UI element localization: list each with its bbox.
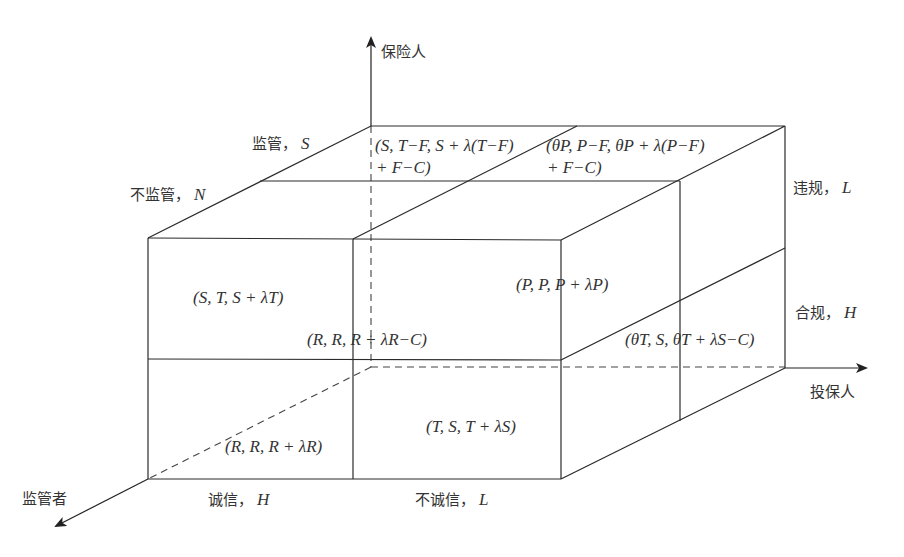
payoff-top-back-left-2: + F−C): [376, 158, 431, 177]
payoff-back-lower-left: (R, R, R + λR−C): [307, 330, 427, 349]
insurer-axis-label: 保险人: [381, 43, 426, 61]
strategy-supervise: 监管，S: [252, 134, 310, 153]
payoff-top-back-right-1: (θP, P−F, θP + λ(P−F): [546, 136, 705, 155]
payoff-top-back-right-2: + F−C): [547, 158, 602, 177]
payoff-cube-diagram: 保险人 投保人 监管者 监管，S 不监管，N 违规，L 合规，H 诚信，H 不诚…: [0, 0, 904, 557]
policyholder-axis-label: 投保人: [810, 383, 855, 401]
payoff-front-lower-right: (T, S, T + λS): [426, 417, 516, 436]
payoff-back-lower-right: (θT, S, θT + λS−C): [625, 330, 755, 349]
strategy-violate: 违规，L: [793, 178, 851, 197]
payoff-front-upper-right: (P, P, P + λP): [516, 275, 609, 294]
regulator-axis-label: 监管者: [22, 490, 67, 508]
strategy-honest: 诚信，H: [208, 490, 271, 509]
payoff-front-upper-left: (S, T, S + λT): [193, 288, 284, 307]
axes: [56, 38, 866, 526]
payoff-front-lower-left: (R, R, R + λR): [225, 437, 323, 456]
regulator-axis: [56, 479, 148, 526]
payoff-top-back-left-1: (S, T−F, S + λ(T−F): [375, 136, 514, 155]
strategy-dishonest: 不诚信，L: [415, 490, 488, 509]
strategy-no-supervise: 不监管，N: [130, 185, 207, 204]
strategy-comply: 合规，H: [795, 303, 858, 322]
